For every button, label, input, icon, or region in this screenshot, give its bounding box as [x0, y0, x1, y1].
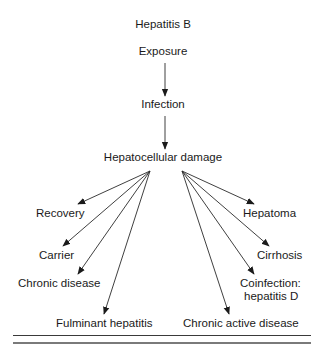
divider-line-top — [13, 335, 311, 336]
arrow-damage-recovery — [78, 171, 150, 204]
arrow-damage-hepatoma — [182, 171, 254, 204]
arrow-damage-coinfection — [182, 171, 254, 274]
divider-line-bottom — [13, 342, 311, 344]
arrow-damage-chronic-active — [182, 171, 229, 314]
arrow-damage-chronic-disease — [78, 171, 150, 274]
arrow-damage-cirrhosis — [182, 171, 269, 246]
arrow-damage-carrier — [63, 171, 150, 246]
arrow-damage-fulminant — [104, 171, 150, 314]
arrows — [0, 0, 319, 346]
